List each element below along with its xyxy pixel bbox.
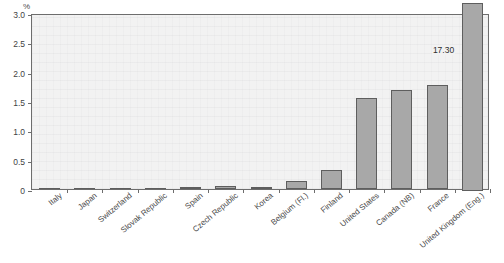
y-axis-tick-label: 2.5 — [13, 39, 25, 49]
bar — [180, 187, 201, 189]
x-axis-tick-label: Italy — [46, 191, 63, 207]
bars-layer: 17.30 — [32, 15, 488, 189]
y-axis-tick-label: 3.0 — [13, 10, 25, 20]
y-axis-tick-label: 0.5 — [13, 157, 25, 167]
x-axis-tick-label: United Kingdom (Eng.) — [418, 191, 486, 250]
bar — [251, 187, 272, 189]
bar — [215, 186, 236, 189]
x-axis-tick-label: Finland — [319, 191, 345, 215]
y-axis-tick-label: 1.5 — [13, 98, 25, 108]
x-axis-labels: ItalyJapanSwitzerlandSlovak RepublicSpai… — [31, 191, 489, 263]
x-axis-tick-label: Korea — [253, 191, 275, 212]
bar — [110, 188, 131, 189]
bar-chart: % 00.51.01.52.02.53.0 17.30 ItalyJapanSw… — [0, 0, 504, 263]
bar-value-label: 17.30 — [432, 45, 455, 55]
bar — [39, 188, 60, 189]
y-axis-tick-label: 0 — [20, 186, 25, 196]
x-axis-tick-label: Spain — [183, 191, 204, 211]
y-axis-tick-label: 1.0 — [13, 127, 25, 137]
bar — [74, 188, 95, 189]
bar — [462, 3, 483, 191]
x-axis-tick-label: Japan — [76, 191, 98, 212]
plot-area: 00.51.01.52.02.53.0 17.30 — [31, 14, 489, 190]
bar — [145, 188, 166, 189]
x-axis-tick-label: France — [426, 191, 451, 214]
y-axis-tick-label: 2.0 — [13, 69, 25, 79]
